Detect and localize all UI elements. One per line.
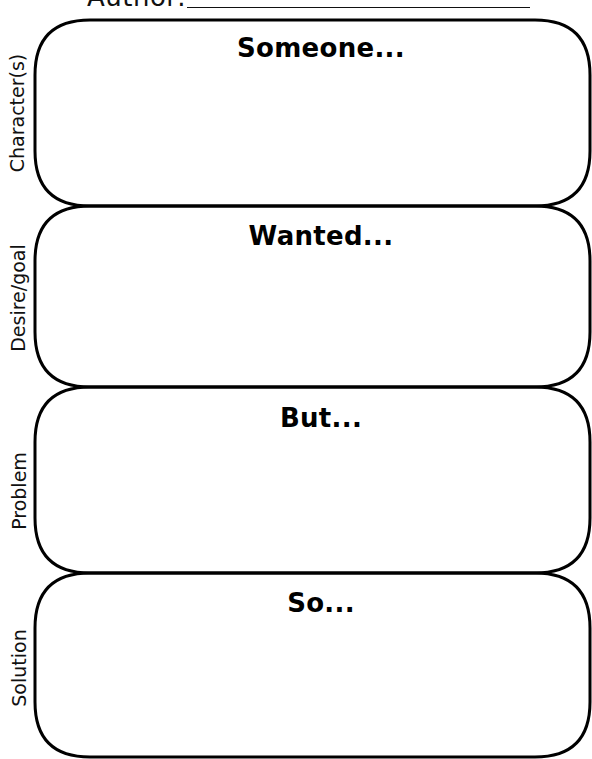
heading-so: So... [35,588,591,618]
side-label-solution: Solution [8,608,30,728]
answer-area-so[interactable] [60,625,560,747]
section-so: So... Solution [0,0,592,759]
